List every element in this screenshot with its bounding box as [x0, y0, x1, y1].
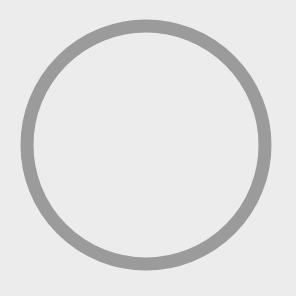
ring-graphic [0, 0, 296, 296]
circle-outline-icon [27, 26, 265, 264]
canvas [0, 0, 296, 296]
